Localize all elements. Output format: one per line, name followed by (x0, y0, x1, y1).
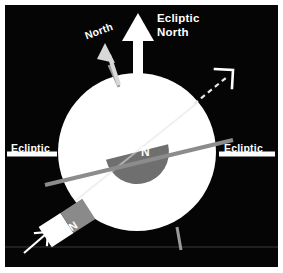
dashed-magnetic-axis-arrow (194, 69, 233, 104)
figure-root: Ecliptic North North Ecliptic Ecliptic N… (0, 0, 283, 273)
diagram-canvas (5, 5, 278, 267)
ecliptic-right-label: Ecliptic (224, 142, 263, 154)
magnet-pointer-arrow (24, 232, 48, 253)
wedge-north-pole-letter: N (141, 145, 150, 159)
ecliptic-left-label: Ecliptic (11, 142, 50, 154)
ecliptic-north-label: Ecliptic North (157, 12, 200, 39)
diagram-panel: Ecliptic North North Ecliptic Ecliptic N… (5, 5, 278, 267)
